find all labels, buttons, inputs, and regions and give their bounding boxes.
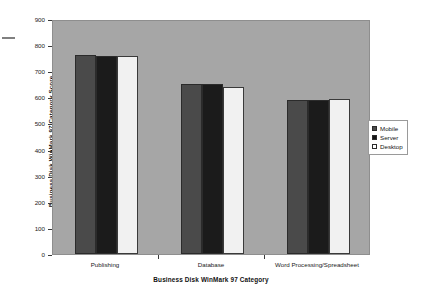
bar-publishing-desktop <box>117 56 138 254</box>
legend-item-server: Server <box>372 133 403 142</box>
bar-database-desktop <box>223 87 244 254</box>
x-tick-mark <box>158 255 159 259</box>
x-tick-label: Word Processing/Spreadsheet <box>257 261 377 268</box>
x-tick-label: Database <box>151 261 271 268</box>
legend-label-mobile: Mobile <box>380 125 398 132</box>
y-tick-label: 600 <box>19 95 45 101</box>
bar-word-processing-spreadsheet-mobile <box>287 100 308 254</box>
legend-swatch-desktop <box>372 144 377 149</box>
bar-word-processing-spreadsheet-desktop <box>329 99 350 254</box>
y-tick-label: 300 <box>19 174 45 180</box>
legend-swatch-server <box>372 135 377 140</box>
bar-database-mobile <box>181 84 202 254</box>
y-tick-label: 400 <box>19 148 45 154</box>
legend-label-server: Server <box>380 134 398 141</box>
y-tick-label: 800 <box>19 43 45 49</box>
chart-legend: Mobile Server Desktop <box>368 120 408 155</box>
bar-word-processing-spreadsheet-server <box>308 100 329 254</box>
chart-figure: Business Disk WinMark 97 Category Score … <box>0 0 427 292</box>
x-tick-mark <box>264 255 265 259</box>
x-axis-title: Business Disk WinMark 97 Category <box>52 276 370 283</box>
legend-label-desktop: Desktop <box>380 143 403 150</box>
x-tick-label: Publishing <box>45 261 165 268</box>
legend-swatch-mobile <box>372 126 377 131</box>
scan-artifact-mark <box>2 37 15 39</box>
y-tick-label: 0 <box>19 252 45 258</box>
plot-area <box>52 20 370 255</box>
y-tick-label: 200 <box>19 200 45 206</box>
y-tick-label: 700 <box>19 69 45 75</box>
bar-publishing-mobile <box>75 55 96 254</box>
legend-item-mobile: Mobile <box>372 124 403 133</box>
bar-database-server <box>202 84 223 254</box>
bar-publishing-server <box>96 56 117 254</box>
y-tick-label: 500 <box>19 121 45 127</box>
legend-item-desktop: Desktop <box>372 142 403 151</box>
y-tick-label: 900 <box>19 17 45 23</box>
y-tick-label: 100 <box>19 226 45 232</box>
